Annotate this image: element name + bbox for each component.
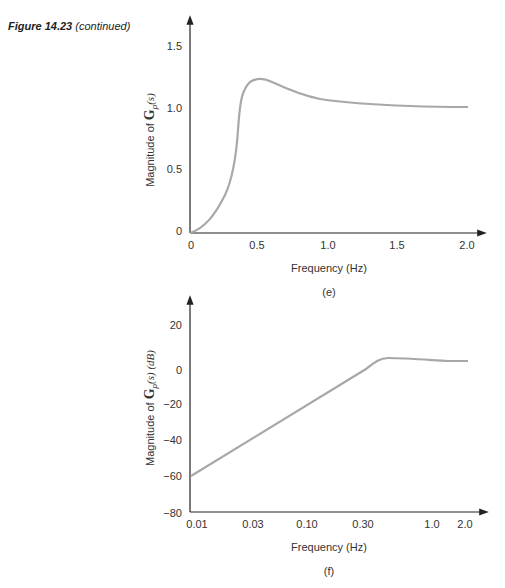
y-tick-e-0.5: 0.5	[167, 163, 182, 175]
x-tick-f-0.03: 0.03	[242, 518, 263, 530]
y-tick-e-1.0: 1.0	[167, 102, 182, 114]
y-tick-f-minus20: −20	[163, 398, 182, 410]
x-tick-f-1.0: 1.0	[424, 518, 439, 530]
x-axis-label-e: Frequency (Hz)	[291, 262, 367, 274]
panel-label-f: (f)	[324, 565, 334, 577]
x-tick-e-0: 0	[188, 239, 194, 251]
y-axis-label-f: Magnitude of Gp(s) (dB)	[142, 350, 159, 466]
y-tick-f-minus60: −60	[163, 470, 182, 482]
figure-canvas: 1.5 1.0 0.5 0 0 0.5 1.0 1.5 2.0 Frequenc…	[0, 0, 505, 588]
magnitude-curve-f	[191, 358, 468, 476]
x-axis-label-f: Frequency (Hz)	[291, 541, 367, 553]
x-tick-f-0.30: 0.30	[352, 518, 373, 530]
chart-f: 20 0 −20 −40 −60 −80 0.01 0.03 0.10 0.30…	[142, 300, 484, 577]
x-tick-e-0.5: 0.5	[249, 239, 264, 251]
x-tick-f-0.01: 0.01	[186, 518, 207, 530]
y-tick-f-20: 20	[170, 319, 182, 331]
y-tick-e-0: 0	[176, 225, 182, 237]
x-tick-f-2.0: 2.0	[457, 518, 472, 530]
panel-label-e: (e)	[322, 286, 335, 298]
x-tick-f-0.10: 0.10	[296, 518, 317, 530]
y-axis-label-e: Magnitude of Gp(s)	[142, 93, 159, 187]
y-tick-f-0: 0	[176, 364, 182, 376]
x-tick-e-1.5: 1.5	[389, 239, 404, 251]
y-tick-f-minus80: −80	[163, 507, 182, 519]
magnitude-curve-e	[190, 79, 468, 233]
x-tick-e-1.0: 1.0	[320, 239, 335, 251]
y-tick-e-1.5: 1.5	[167, 40, 182, 52]
x-tick-e-2.0: 2.0	[459, 239, 474, 251]
y-tick-f-minus40: −40	[163, 434, 182, 446]
chart-e: 1.5 1.0 0.5 0 0 0.5 1.0 1.5 2.0 Frequenc…	[142, 20, 482, 298]
